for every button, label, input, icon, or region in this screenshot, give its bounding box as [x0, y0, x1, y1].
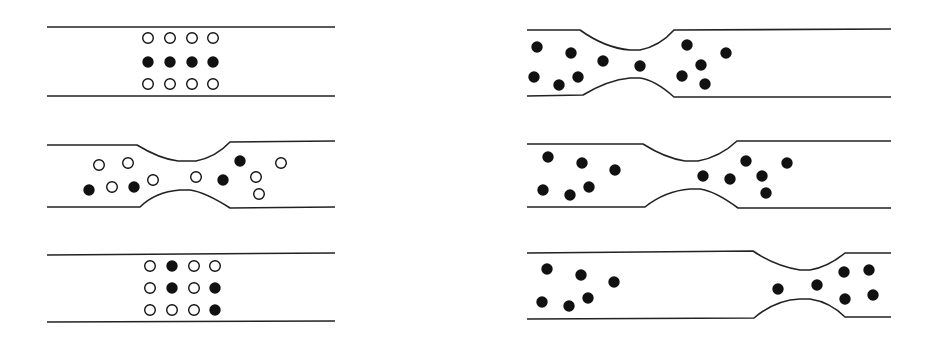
filled-particle [597, 55, 608, 66]
filled-particle [676, 70, 687, 81]
channel-top-wall [47, 253, 335, 255]
channel-bottom-wall [527, 299, 891, 319]
filled-particle [720, 47, 731, 58]
open-particle [251, 172, 262, 183]
filled-particle [542, 151, 553, 162]
open-particle [254, 189, 265, 200]
filled-particle [536, 296, 547, 307]
channel-panel-right-1 [527, 29, 891, 97]
open-particle [208, 33, 219, 44]
open-particle [208, 79, 219, 90]
filled-particle [772, 283, 783, 294]
filled-particle [142, 56, 153, 67]
filled-particle [582, 292, 593, 303]
filled-particle [756, 170, 767, 181]
channel-top-wall [47, 141, 335, 161]
filled-particle [166, 282, 177, 293]
open-particle [187, 33, 198, 44]
filled-particle [217, 174, 228, 185]
filled-particle [695, 59, 706, 70]
open-particle [143, 79, 154, 90]
filled-particle [83, 184, 94, 195]
filled-particle [128, 181, 139, 192]
open-particle [145, 261, 156, 272]
filled-particle [608, 276, 619, 287]
open-particle [191, 172, 202, 183]
filled-particle [209, 282, 220, 293]
filled-particle [207, 56, 218, 67]
open-particle [167, 305, 178, 316]
filled-particle [583, 181, 594, 192]
filled-particle [537, 184, 548, 195]
filled-particle [234, 155, 245, 166]
filled-particle [209, 304, 220, 315]
filled-particle [634, 60, 645, 71]
channel-panel-left-1 [47, 27, 335, 96]
filled-particle [575, 269, 586, 280]
open-particle [145, 305, 156, 316]
filled-particle [697, 170, 708, 181]
open-particle [165, 79, 176, 90]
open-particle [107, 182, 118, 193]
filled-particle [531, 41, 542, 52]
filled-particle [699, 78, 710, 89]
open-particle [148, 175, 159, 186]
filled-particle [681, 39, 692, 50]
filled-particle [781, 157, 792, 168]
filled-particle [724, 173, 735, 184]
filled-particle [541, 263, 552, 274]
filled-particle [863, 264, 874, 275]
channel-panel-left-2 [47, 141, 335, 208]
open-particle [187, 79, 198, 90]
filled-particle [576, 157, 587, 168]
channel-panel-right-3 [527, 251, 891, 319]
flow-diagram-canvas [0, 0, 930, 341]
channel-top-wall [527, 29, 891, 50]
filled-particle [867, 289, 878, 300]
filled-particle [572, 71, 583, 82]
channel-bottom-wall [47, 321, 335, 322]
open-particle [210, 261, 221, 272]
filled-particle [811, 279, 822, 290]
filled-particle [565, 47, 576, 58]
channel-panel-left-3 [47, 253, 335, 322]
filled-particle [166, 260, 177, 271]
filled-particle [164, 56, 175, 67]
open-particle [94, 160, 105, 171]
open-particle [189, 283, 200, 294]
filled-particle [186, 56, 197, 67]
filled-particle [838, 266, 849, 277]
open-particle [189, 305, 200, 316]
filled-particle [760, 187, 771, 198]
channel-top-wall [527, 251, 891, 270]
channel-panel-right-2 [527, 141, 891, 208]
open-particle [276, 158, 287, 169]
open-particle [165, 33, 176, 44]
filled-particle [553, 79, 564, 90]
open-particle [123, 158, 134, 169]
filled-particle [563, 300, 574, 311]
open-particle [143, 33, 154, 44]
filled-particle [839, 293, 850, 304]
open-particle [189, 261, 200, 272]
channel-bottom-wall [527, 189, 891, 208]
filled-particle [740, 155, 751, 166]
filled-particle [564, 189, 575, 200]
filled-particle [609, 164, 620, 175]
filled-particle [528, 71, 539, 82]
open-particle [145, 283, 156, 294]
